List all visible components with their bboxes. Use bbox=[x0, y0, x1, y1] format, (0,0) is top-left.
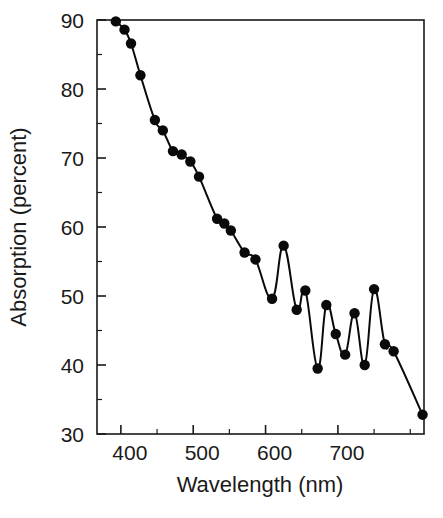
data-point-marker bbox=[340, 349, 350, 359]
x-tick-label: 500 bbox=[185, 441, 220, 464]
data-point-marker bbox=[239, 247, 249, 257]
data-point-marker bbox=[349, 308, 359, 318]
data-point-marker bbox=[176, 149, 186, 159]
data-point-marker bbox=[150, 115, 160, 125]
data-point-marker bbox=[312, 363, 322, 373]
data-point-marker bbox=[331, 329, 341, 339]
x-axis-title: Wavelength (nm) bbox=[177, 472, 344, 497]
chart-canvas: 30405060708090 400500600700 Wavelength (… bbox=[0, 0, 443, 518]
data-point-marker bbox=[119, 24, 129, 34]
data-point-marker bbox=[417, 409, 427, 419]
x-tick-label: 600 bbox=[257, 441, 292, 464]
data-point-marker bbox=[369, 284, 379, 294]
data-point-marker bbox=[135, 70, 145, 80]
data-point-marker bbox=[321, 300, 331, 310]
absorption-curve bbox=[116, 21, 423, 414]
x-axis-ticks bbox=[121, 425, 410, 434]
y-tick-label: 40 bbox=[61, 354, 84, 377]
data-point-marker bbox=[267, 294, 277, 304]
data-point-marker bbox=[359, 360, 369, 370]
data-point-marker bbox=[185, 156, 195, 166]
y-tick-label: 70 bbox=[61, 147, 84, 170]
x-tick-label: 400 bbox=[112, 441, 147, 464]
y-tick-label: 90 bbox=[61, 9, 84, 32]
absorption-data-markers bbox=[111, 16, 428, 420]
y-tick-label: 50 bbox=[61, 285, 84, 308]
data-point-marker bbox=[126, 38, 136, 48]
y-axis-title: Absorption (percent) bbox=[6, 127, 31, 326]
y-tick-label: 80 bbox=[61, 78, 84, 101]
y-axis-tick-labels: 30405060708090 bbox=[61, 9, 84, 446]
x-tick-label: 700 bbox=[329, 441, 364, 464]
data-point-marker bbox=[194, 171, 204, 181]
data-point-marker bbox=[380, 339, 390, 349]
data-point-marker bbox=[278, 240, 288, 250]
y-tick-label: 30 bbox=[61, 423, 84, 446]
plot-frame bbox=[97, 20, 424, 434]
plot-area-border bbox=[97, 20, 424, 434]
y-axis-ticks bbox=[97, 20, 106, 434]
data-series-absorption bbox=[111, 16, 428, 420]
absorption-spectrum-figure: 30405060708090 400500600700 Wavelength (… bbox=[0, 0, 443, 518]
y-tick-label: 60 bbox=[61, 216, 84, 239]
data-point-marker bbox=[226, 225, 236, 235]
data-point-marker bbox=[158, 125, 168, 135]
x-axis-tick-labels: 400500600700 bbox=[112, 441, 364, 464]
data-point-marker bbox=[388, 346, 398, 356]
data-point-marker bbox=[300, 285, 310, 295]
data-point-marker bbox=[250, 254, 260, 264]
data-point-marker bbox=[291, 305, 301, 315]
data-point-marker bbox=[111, 16, 121, 26]
